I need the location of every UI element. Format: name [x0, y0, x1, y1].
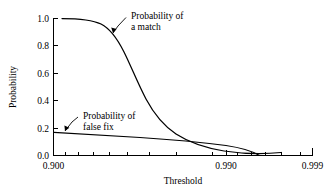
annotation-probability-of-a-match: Probability of a match [111, 11, 184, 33]
y-tick-label-6: 0.0 [37, 151, 49, 161]
annotation-false-fix-line2: false fix [83, 122, 114, 132]
x-tick-label-1: 0.900 [43, 161, 65, 171]
y-tick-label-5: 0.2 [37, 124, 49, 134]
series-line-probability-of-a-match [62, 19, 281, 154]
x-tick-label-3: 0.999 [302, 161, 324, 171]
y-axis-ticks [54, 19, 58, 156]
y-tick-label-1: 1.0 [37, 14, 49, 24]
annotation-match-line2: a match [131, 22, 161, 32]
annotation-false-fix-line1: Probability of [83, 111, 136, 121]
x-axis-title: Threshold [164, 176, 203, 186]
annotation-probability-of-false-fix: Probability of false fix [64, 111, 136, 132]
x-tick-label-2: 0.990 [215, 161, 237, 171]
y-tick-label-3: 0.6 [37, 69, 49, 79]
y-axis-title: Probability [8, 66, 18, 108]
x-axis-tick-labels: 0.900 0.990 0.999 [43, 161, 324, 171]
y-axis-tick-labels: 1.0 0.8 0.6 0.4 0.2 0.0 [37, 14, 49, 161]
y-tick-label-4: 0.4 [37, 96, 49, 106]
x-axis-ticks [54, 150, 313, 156]
probability-vs-threshold-chart: 1.0 0.8 0.6 0.4 0.2 0.0 Probability [0, 0, 332, 190]
chart-figure: 1.0 0.8 0.6 0.4 0.2 0.0 Probability [0, 0, 332, 190]
y-tick-label-2: 0.8 [37, 41, 49, 51]
annotation-match-line1: Probability of [131, 11, 184, 21]
